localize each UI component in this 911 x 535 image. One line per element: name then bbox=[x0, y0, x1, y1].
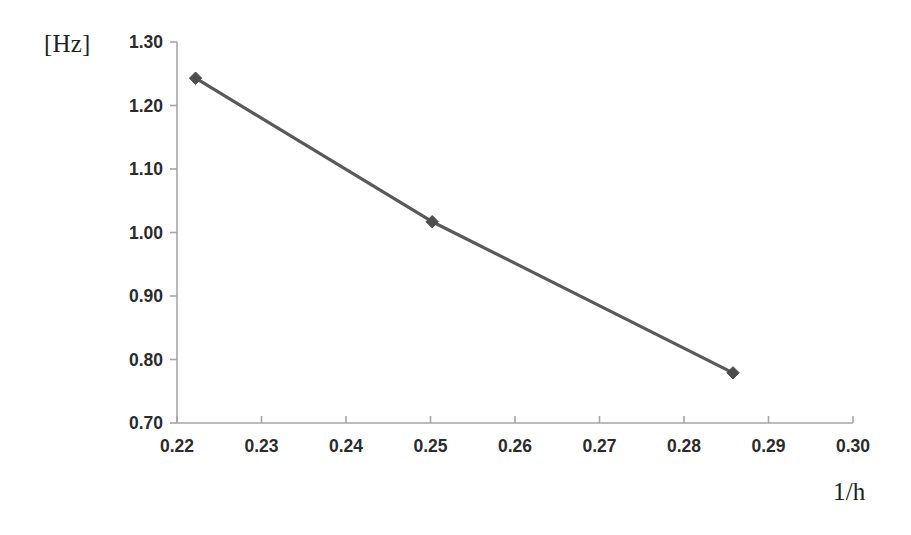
axes bbox=[170, 42, 853, 423]
chart-container: [Hz] 1/h 0.700.800.901.001.101.201.30 0.… bbox=[0, 0, 911, 535]
plot-area bbox=[0, 0, 911, 535]
series-line bbox=[196, 78, 733, 373]
data-point-marker bbox=[727, 367, 739, 379]
data-series bbox=[189, 72, 739, 379]
